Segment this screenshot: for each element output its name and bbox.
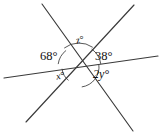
line-lower-left-to-upper-right [26, 5, 134, 122]
arc-68-icon [58, 50, 66, 64]
angle-label-2y: 2y° [93, 68, 109, 80]
angle-label-38: 38° [95, 50, 113, 63]
lines-group [4, 4, 158, 131]
line-upper-left-to-lower-right [42, 4, 133, 131]
angle-label-68: 68° [40, 50, 58, 63]
figure-canvas [0, 0, 162, 137]
angle-label-x: x° [55, 70, 65, 82]
geometry-figure: 68° 38° z° x° 2y° [0, 0, 162, 137]
